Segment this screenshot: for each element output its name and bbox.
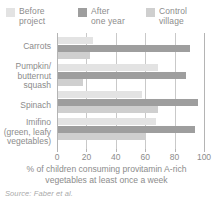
category-label-line: squash (0, 81, 51, 91)
xtick-label-80: 80 (170, 152, 179, 163)
xtick-label-60: 60 (140, 152, 149, 163)
bar-before-project (58, 118, 156, 125)
legend-label-line2: village (159, 16, 187, 26)
category-label-pumpkin-butternut-squash: Pumpkin/ butternut squash (0, 62, 51, 91)
bar-control-village (58, 52, 90, 59)
legend-swatch-control-village (146, 8, 155, 17)
category-label-spinach: Spinach (0, 101, 51, 111)
xtick-label-100: 100 (197, 152, 211, 163)
legend-item-after-one-year: After one year (78, 6, 146, 26)
chart-container: Before project After one year Control vi… (0, 0, 213, 202)
xtick-label-40: 40 (111, 152, 120, 163)
bar-before-project (58, 91, 142, 98)
legend-label-line1: Before (19, 6, 45, 16)
x-axis-title-line1: % of children consuming provitamin A-ric… (4, 164, 209, 175)
bar-control-village (58, 106, 158, 113)
category-label-imifino: Imifino (green, leafy vegetables) (0, 118, 51, 147)
plot-axes (57, 33, 205, 149)
xtick-label-20: 20 (82, 152, 91, 163)
bar-group-spinach (58, 91, 205, 115)
legend-label-line1: Control (159, 6, 187, 16)
legend-swatch-before-project (6, 8, 15, 17)
legend-item-before-project: Before project (6, 6, 78, 26)
bar-after-one-year (58, 99, 198, 106)
category-label-line: Spinach (0, 101, 51, 111)
bar-group-pumpkin (58, 64, 205, 88)
category-label-carrots: Carrots (0, 42, 51, 52)
bar-before-project (58, 64, 158, 71)
x-axis-title-line2: vegetables at least once a week (4, 175, 209, 186)
category-label-line: Carrots (0, 42, 51, 52)
bar-after-one-year (58, 45, 190, 52)
legend-label-before-project: Before project (19, 6, 45, 26)
legend-item-control-village: Control village (146, 6, 208, 26)
plot-area: Carrots Pumpkin/ butternut squash Spinac… (0, 33, 213, 149)
legend-label-line1: After (91, 6, 125, 16)
legend-label-after-one-year: After one year (91, 6, 125, 26)
xtick-label-0: 0 (55, 152, 60, 163)
x-axis-ticks: 0 20 40 60 80 100 (57, 149, 205, 165)
category-label-line: vegetables) (0, 137, 51, 147)
legend-label-line2: project (19, 16, 45, 26)
bar-group-carrots (58, 37, 205, 61)
bar-after-one-year (58, 72, 186, 79)
legend-label-line2: one year (91, 16, 125, 26)
x-axis-title: % of children consuming provitamin A-ric… (4, 164, 209, 185)
legend-swatch-after-one-year (78, 8, 87, 17)
source-note: Source: Faber et al. (5, 189, 73, 198)
bar-after-one-year (58, 126, 195, 133)
category-axis-labels: Carrots Pumpkin/ butternut squash Spinac… (0, 33, 51, 149)
legend-label-control-village: Control village (159, 6, 187, 26)
bar-before-project (58, 37, 93, 44)
bar-control-village (58, 133, 146, 140)
bar-group-imifino (58, 118, 205, 142)
chart-legend: Before project After one year Control vi… (6, 6, 208, 26)
bar-control-village (58, 79, 83, 86)
